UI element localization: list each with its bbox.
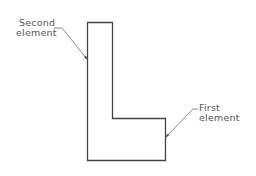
l-shape-outline xyxy=(88,23,166,161)
first-element-leader xyxy=(166,109,198,137)
second-element-label-line2: element xyxy=(16,27,57,38)
l-shape-diagram: Second element First element xyxy=(0,0,256,176)
second-element-leader xyxy=(54,28,87,59)
first-element-label-line2: element xyxy=(199,112,240,123)
